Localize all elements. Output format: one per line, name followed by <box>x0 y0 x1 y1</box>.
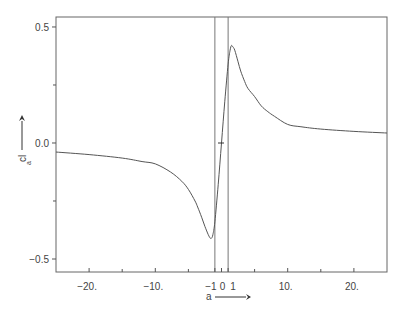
data-curve <box>56 45 387 238</box>
axis-ticks <box>52 27 354 272</box>
svg-text:cl: cl <box>17 155 28 162</box>
x-axis-arrow-icon <box>215 294 251 300</box>
y-tick-label: 0.0 <box>35 138 49 149</box>
y-axis-arrow-icon <box>19 115 25 150</box>
x-tick-label: 0 <box>220 281 226 292</box>
y-tick-label: −0.5 <box>29 254 49 265</box>
y-tick-label: 0.5 <box>35 22 49 33</box>
x-tick-label: 10. <box>279 281 293 292</box>
x-tick-label: −20. <box>77 281 97 292</box>
x-tick-label: 20. <box>345 281 359 292</box>
x-tick-label: 1 <box>230 281 236 292</box>
y-axis-label-sub: l <box>17 155 28 157</box>
chart: −20.−10.−10110.20.0.50.0−0.5 a cl a <box>0 0 406 317</box>
y-axis-label: cl a <box>17 155 32 165</box>
tick-labels: −20.−10.−10110.20.0.50.0−0.5 <box>29 22 359 292</box>
x-tick-label: −10. <box>143 281 163 292</box>
x-axis-label: a <box>206 291 212 302</box>
y-axis-label-subscript: a <box>25 161 32 165</box>
